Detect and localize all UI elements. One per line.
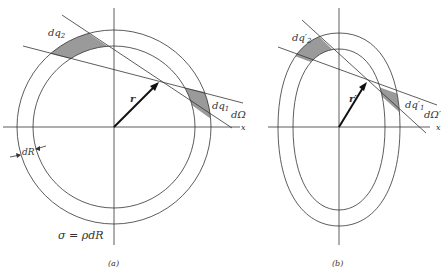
shaded-charge-elements-a	[0, 0, 250, 271]
label-domega-a: dΩ	[231, 109, 246, 120]
cone-line-1-b	[302, 20, 426, 133]
label-domega-b: dΩ′	[424, 109, 442, 120]
caption-a: (a)	[108, 259, 119, 268]
shaded-charge-elements-b	[250, 0, 447, 271]
label-x-a: x	[241, 123, 246, 132]
caption-b: (b)	[332, 259, 343, 268]
label-dq1-b: dq′1	[405, 99, 425, 112]
label-dR: dR	[22, 147, 35, 157]
panel-b: dq′2 dq′1 dΩ′ r′ x (b)	[250, 0, 447, 271]
label-x-b: x	[436, 123, 441, 132]
label-r-a: r	[130, 93, 136, 104]
cone-line-1-a	[62, 15, 232, 128]
arrowhead-icon	[16, 153, 21, 158]
label-dq1-a: dq1	[212, 100, 229, 113]
panel-a: dq2 dq1 dΩ r x dR σ = ρdR (a)	[0, 0, 250, 271]
r-vector-a	[114, 85, 156, 127]
diagram-canvas: dq2 dq1 dΩ r x dR σ = ρdR (a) dq′2 dq′1 …	[0, 0, 447, 271]
label-dq2-a: dq2	[48, 27, 66, 40]
arrowhead-icon	[359, 82, 367, 91]
label-sigma: σ = ρdR	[58, 229, 104, 242]
label-r-b: r′	[349, 93, 357, 104]
label-dq2-b: dq′2	[292, 32, 312, 45]
